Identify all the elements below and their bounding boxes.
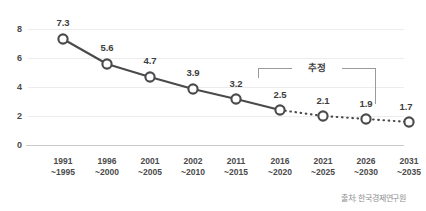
x-tick-line2: ~2010 [171, 167, 215, 178]
x-tick-line2: ~1995 [41, 167, 85, 178]
x-tick-label: 1996 ~2000 [85, 156, 129, 178]
x-tick-label: 2021 ~2025 [301, 156, 345, 178]
point-value-label: 7.3 [46, 18, 80, 28]
x-tick-line1: 2002 [184, 156, 203, 166]
x-tick-label: 2016 ~2020 [258, 156, 302, 178]
forecast-bracket: 추정 [258, 68, 376, 69]
point-value-label: 2.1 [306, 96, 340, 106]
forecast-bracket-label: 추정 [292, 61, 342, 74]
estimate-line [280, 110, 409, 122]
data-point-marker [102, 59, 111, 68]
bracket-tick-left [258, 68, 259, 78]
data-point-marker [404, 117, 413, 126]
x-tick-line1: 2001 [141, 156, 160, 166]
point-value-label: 1.9 [349, 99, 383, 109]
x-tick-label: 2031 ~2035 [387, 156, 426, 178]
x-tick-line2: ~2000 [85, 167, 129, 178]
x-tick-label: 2001 ~2005 [128, 156, 172, 178]
source-note: 출처: 한국경제연구원 [341, 192, 406, 203]
x-tick-label: 2011 ~2015 [214, 156, 258, 178]
x-tick-label: 2002 ~2010 [171, 156, 215, 178]
data-point-marker [275, 105, 284, 114]
x-tick-line1: 2016 [271, 156, 290, 166]
x-tick-line1: 2026 [357, 156, 376, 166]
x-tick-line1: 1991 [54, 156, 73, 166]
x-tick-line1: 2011 [227, 156, 245, 166]
point-value-label: 3.2 [219, 79, 253, 89]
x-tick-line2: ~2025 [301, 167, 345, 178]
bracket-tick-right [375, 68, 376, 104]
x-tick-line1: 2021 [314, 156, 333, 166]
data-point-marker [361, 114, 370, 123]
point-value-label: 2.5 [263, 90, 297, 100]
x-tick-line2: ~2035 [387, 167, 426, 178]
point-value-label: 3.9 [176, 68, 210, 78]
bracket-bar-left [258, 68, 292, 69]
point-value-label: 4.7 [133, 56, 167, 66]
x-tick-label: 2026 ~2030 [344, 156, 388, 178]
x-tick-line2: ~2030 [344, 167, 388, 178]
x-tick-line1: 2031 [400, 156, 419, 166]
x-tick-line2: ~2015 [214, 167, 258, 178]
bracket-bar-right [342, 68, 376, 69]
data-point-marker [231, 94, 240, 103]
x-tick-label: 1991 ~1995 [41, 156, 85, 178]
data-point-marker [145, 72, 154, 81]
data-point-marker [188, 84, 197, 93]
x-tick-line1: 1996 [98, 156, 117, 166]
data-point-marker [58, 34, 67, 43]
point-value-label: 1.7 [389, 102, 423, 112]
point-value-label: 5.6 [90, 43, 124, 53]
x-tick-line2: ~2005 [128, 167, 172, 178]
x-tick-line2: ~2020 [258, 167, 302, 178]
data-point-marker [318, 111, 327, 120]
